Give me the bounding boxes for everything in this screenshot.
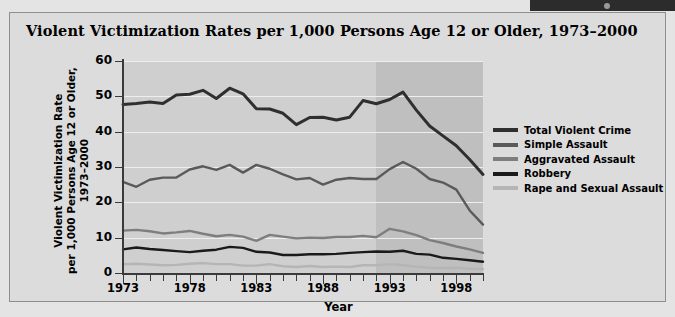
legend-swatch-icon xyxy=(493,186,518,190)
x-tick-label: 1983 xyxy=(240,281,272,295)
x-tick-label: 1993 xyxy=(374,281,406,295)
legend-label: Rape and Sexual Assault xyxy=(524,183,663,194)
y-tick-label: 50 xyxy=(95,88,112,102)
legend-swatch-icon xyxy=(493,172,518,176)
legend-label: Aggravated Assault xyxy=(524,154,635,165)
y-tick-label: 10 xyxy=(95,230,112,244)
x-tick-minor xyxy=(150,275,151,281)
y-tick xyxy=(115,273,122,274)
x-tick-minor xyxy=(163,275,164,281)
y-tick-label: 40 xyxy=(95,124,112,138)
legend-item: Robbery xyxy=(493,167,659,182)
chart-legend: Total Violent CrimeSimple AssaultAggrava… xyxy=(493,123,659,196)
y-tick-label: 30 xyxy=(95,159,112,173)
y-tick xyxy=(115,202,122,203)
x-tick-minor xyxy=(230,275,231,281)
y-axis-line xyxy=(122,59,124,275)
x-tick-minor xyxy=(483,275,484,281)
legend-item: Total Violent Crime xyxy=(493,123,659,138)
legend-label: Robbery xyxy=(524,168,571,179)
figure-title: Violent Victimization Rates per 1,000 Pe… xyxy=(26,22,638,39)
figure-panel: Violent Victimization Rates per 1,000 Pe… xyxy=(9,12,666,302)
x-tick-minor xyxy=(416,275,417,281)
y-axis-title: Violent Victimization Rate per 1,000 Per… xyxy=(54,63,90,275)
y-tick xyxy=(115,61,122,62)
series-line xyxy=(123,229,483,253)
legend-swatch-icon xyxy=(493,157,518,161)
legend-label: Total Violent Crime xyxy=(524,125,631,136)
x-tick-label: 1998 xyxy=(440,281,472,295)
x-tick-minor xyxy=(363,275,364,281)
series-line xyxy=(123,247,483,262)
x-tick-label: 1988 xyxy=(307,281,339,295)
legend-item: Aggravated Assault xyxy=(493,152,659,167)
y-tick-label: 0 xyxy=(104,265,112,279)
y-tick-label: 20 xyxy=(95,194,112,208)
y-axis-title-text: Violent Victimization Rate per 1,000 Per… xyxy=(52,65,91,277)
y-tick-label: 60 xyxy=(95,53,112,67)
x-tick-minor xyxy=(350,275,351,281)
x-tick-label: 1978 xyxy=(174,281,206,295)
series-line xyxy=(123,263,483,269)
legend-item: Rape and Sexual Assault xyxy=(493,181,659,196)
y-tick xyxy=(115,132,122,133)
legend-swatch-icon xyxy=(493,143,518,147)
window-dot-icon xyxy=(604,3,610,9)
legend-label: Simple Assault xyxy=(524,139,608,150)
series-line xyxy=(123,88,483,174)
series-lines xyxy=(123,61,483,273)
y-tick xyxy=(115,238,122,239)
x-tick-minor xyxy=(283,275,284,281)
y-tick xyxy=(115,167,122,168)
legend-swatch-icon xyxy=(493,128,518,132)
series-line xyxy=(123,162,483,225)
screenshot-root: Violent Victimization Rates per 1,000 Pe… xyxy=(0,0,675,317)
x-axis-title: Year xyxy=(10,300,667,314)
x-tick-minor xyxy=(216,275,217,281)
legend-item: Simple Assault xyxy=(493,138,659,153)
plot-area xyxy=(123,61,483,273)
window-titlebar-strip xyxy=(530,0,675,11)
x-tick-minor xyxy=(430,275,431,281)
x-tick-label: 1973 xyxy=(107,281,139,295)
y-tick xyxy=(115,96,122,97)
x-tick-minor xyxy=(296,275,297,281)
